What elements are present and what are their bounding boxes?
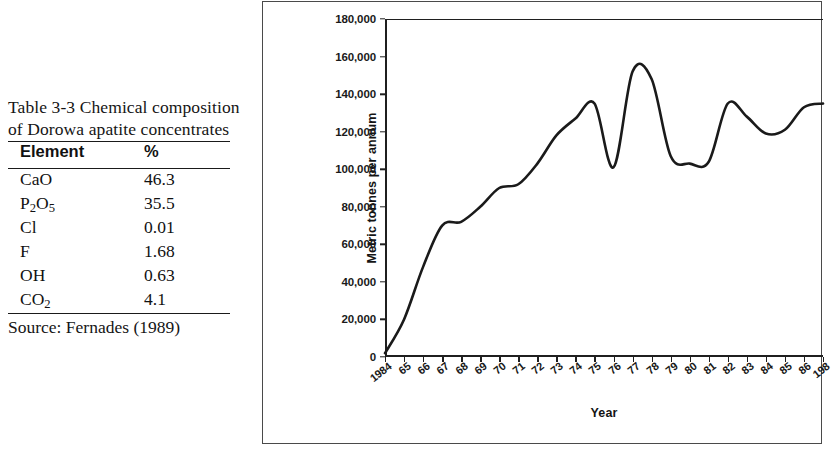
formula-sub-2: 2 <box>44 297 50 311</box>
column-header-element: Element <box>8 142 124 169</box>
y-axis-tick-label: 100,000 <box>335 163 385 175</box>
y-axis-tick-label: 60,000 <box>341 238 385 250</box>
table-row: OH 0.63 <box>8 265 230 289</box>
cell-value: 1.68 <box>124 241 230 265</box>
table-row: CO2 4.1 <box>8 289 230 314</box>
y-axis-tick-label: 140,000 <box>335 88 385 100</box>
x-axis-tick-label: 73 <box>549 360 566 377</box>
table-caption: Table 3-3 Chemical composition of Dorowa… <box>8 96 240 140</box>
x-axis-title: Year <box>385 406 823 420</box>
formula-sub-5: 5 <box>49 201 55 215</box>
cell-value: 46.3 <box>124 169 230 194</box>
cell-element: F <box>8 241 124 265</box>
table-header-row: Element % <box>8 142 230 169</box>
x-axis-tick-label: 80 <box>682 360 699 377</box>
chemical-composition-table: Element % CaO 46.3 P2O5 35.5 Cl 0.01 <box>8 141 230 314</box>
series-path <box>385 64 823 353</box>
formula-sub-2: 2 <box>30 201 36 215</box>
x-axis-tick-label: 81 <box>701 360 718 377</box>
cell-value: 0.63 <box>124 265 230 289</box>
cell-element: CaO <box>8 169 124 194</box>
table-source-note: Source: Fernades (1989) <box>8 317 240 338</box>
x-axis-tick-label: 1984 <box>368 360 394 384</box>
table-row: Cl 0.01 <box>8 217 230 241</box>
cell-element: P2O5 <box>8 193 124 217</box>
x-axis-tick-label: 69 <box>472 360 489 377</box>
formula-co: CO <box>20 289 44 309</box>
x-axis-tick-label: 71 <box>511 360 528 377</box>
y-axis-tick-label: 180,000 <box>335 13 385 25</box>
x-axis-tick-label: 75 <box>587 360 604 377</box>
x-axis-tick-label: 85 <box>777 360 794 377</box>
x-axis-tick-label: 74 <box>568 360 585 377</box>
table-row: CaO 46.3 <box>8 169 230 194</box>
x-axis-tick-label: 66 <box>415 360 432 377</box>
formula-o: O <box>36 193 49 213</box>
cell-value: 4.1 <box>124 289 230 314</box>
x-axis-tick-label: 78 <box>644 360 661 377</box>
y-axis-tick-label: 80,000 <box>341 201 385 213</box>
y-axis-tick-label: 40,000 <box>341 276 385 288</box>
x-axis-tick-label: 83 <box>739 360 756 377</box>
table-header: Element % <box>8 142 230 169</box>
table-body: CaO 46.3 P2O5 35.5 Cl 0.01 F 1.68 OH 0 <box>8 169 230 314</box>
x-axis-tick-label: 79 <box>663 360 680 377</box>
production-series-line <box>385 19 823 357</box>
x-axis-tick-label: 65 <box>396 360 413 377</box>
table-row: F 1.68 <box>8 241 230 265</box>
chemical-composition-table-block: Table 3-3 Chemical composition of Dorowa… <box>8 96 240 338</box>
table-row: P2O5 35.5 <box>8 193 230 217</box>
x-axis-tick-label: 76 <box>606 360 623 377</box>
x-axis-tick-label: 82 <box>720 360 737 377</box>
x-axis-tick-label: 70 <box>491 360 508 377</box>
cell-value: 35.5 <box>124 193 230 217</box>
x-axis-tick-label: 68 <box>453 360 470 377</box>
formula-p: P <box>20 193 30 213</box>
x-axis-tick-label: 86 <box>796 360 813 377</box>
y-axis-tick-label: 160,000 <box>335 51 385 63</box>
cell-value: 0.01 <box>124 217 230 241</box>
cell-element: CO2 <box>8 289 124 314</box>
x-axis-tick-label: 72 <box>530 360 547 377</box>
column-header-percent: % <box>124 142 230 169</box>
x-axis-tick-label: 84 <box>758 360 775 377</box>
x-axis-tick-label: 77 <box>625 360 642 377</box>
cell-element: OH <box>8 265 124 289</box>
x-axis-tick-label: 198 <box>810 360 831 380</box>
x-axis-tick-label: 67 <box>434 360 451 377</box>
cell-element: Cl <box>8 217 124 241</box>
plot-area: 180,000160,000140,000120,000100,00080,00… <box>385 19 823 357</box>
production-line-chart: Metric tonnes per annum 180,000160,00014… <box>262 1 822 444</box>
y-axis-tick-label: 120,000 <box>335 126 385 138</box>
y-axis-tick-label: 20,000 <box>341 313 385 325</box>
